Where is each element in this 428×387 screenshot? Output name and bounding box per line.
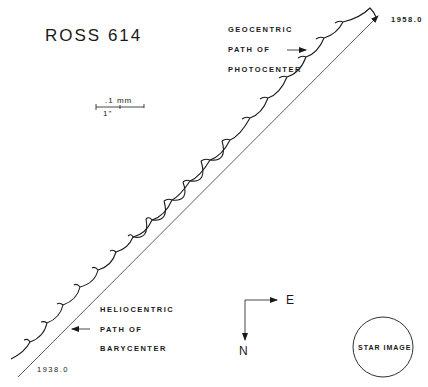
photocenter-loops bbox=[133, 141, 224, 237]
compass-east-label: E bbox=[286, 294, 294, 306]
barycenter-path-line bbox=[18, 16, 378, 377]
geocentric-label-line3: PHOTOCENTER bbox=[228, 66, 302, 74]
scale-bar-bottom-label: 1" bbox=[103, 110, 112, 118]
compass bbox=[245, 300, 277, 340]
heliocentric-label-line3: BARYCENTER bbox=[100, 345, 167, 353]
geocentric-label-line2: PATH OF bbox=[228, 46, 270, 54]
astrometric-path-diagram bbox=[0, 0, 428, 387]
diagram-title: ROSS 614 bbox=[45, 27, 142, 44]
heliocentric-label-line1: HELIOCENTRIC bbox=[100, 306, 174, 314]
star-image-label: STAR IMAGE bbox=[358, 344, 411, 351]
compass-north-label: N bbox=[239, 345, 248, 357]
epoch-start-label: 1938.0 bbox=[37, 366, 69, 374]
geocentric-label-line1: GEOCENTRIC bbox=[228, 26, 293, 34]
heliocentric-label-line2: PATH OF bbox=[100, 326, 142, 334]
scale-bar-top-label: .1 mm bbox=[105, 97, 132, 105]
photocenter-path-curve bbox=[11, 8, 376, 359]
epoch-end-label: 1958.0 bbox=[391, 16, 423, 24]
